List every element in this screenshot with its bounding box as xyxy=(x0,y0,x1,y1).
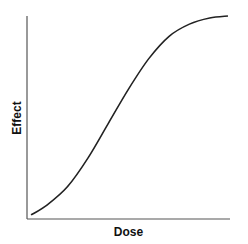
y-axis-label: Effect xyxy=(10,101,24,134)
dose-response-chart xyxy=(0,0,248,244)
x-axis-label: Dose xyxy=(27,225,230,239)
dose-response-curve xyxy=(31,16,228,215)
